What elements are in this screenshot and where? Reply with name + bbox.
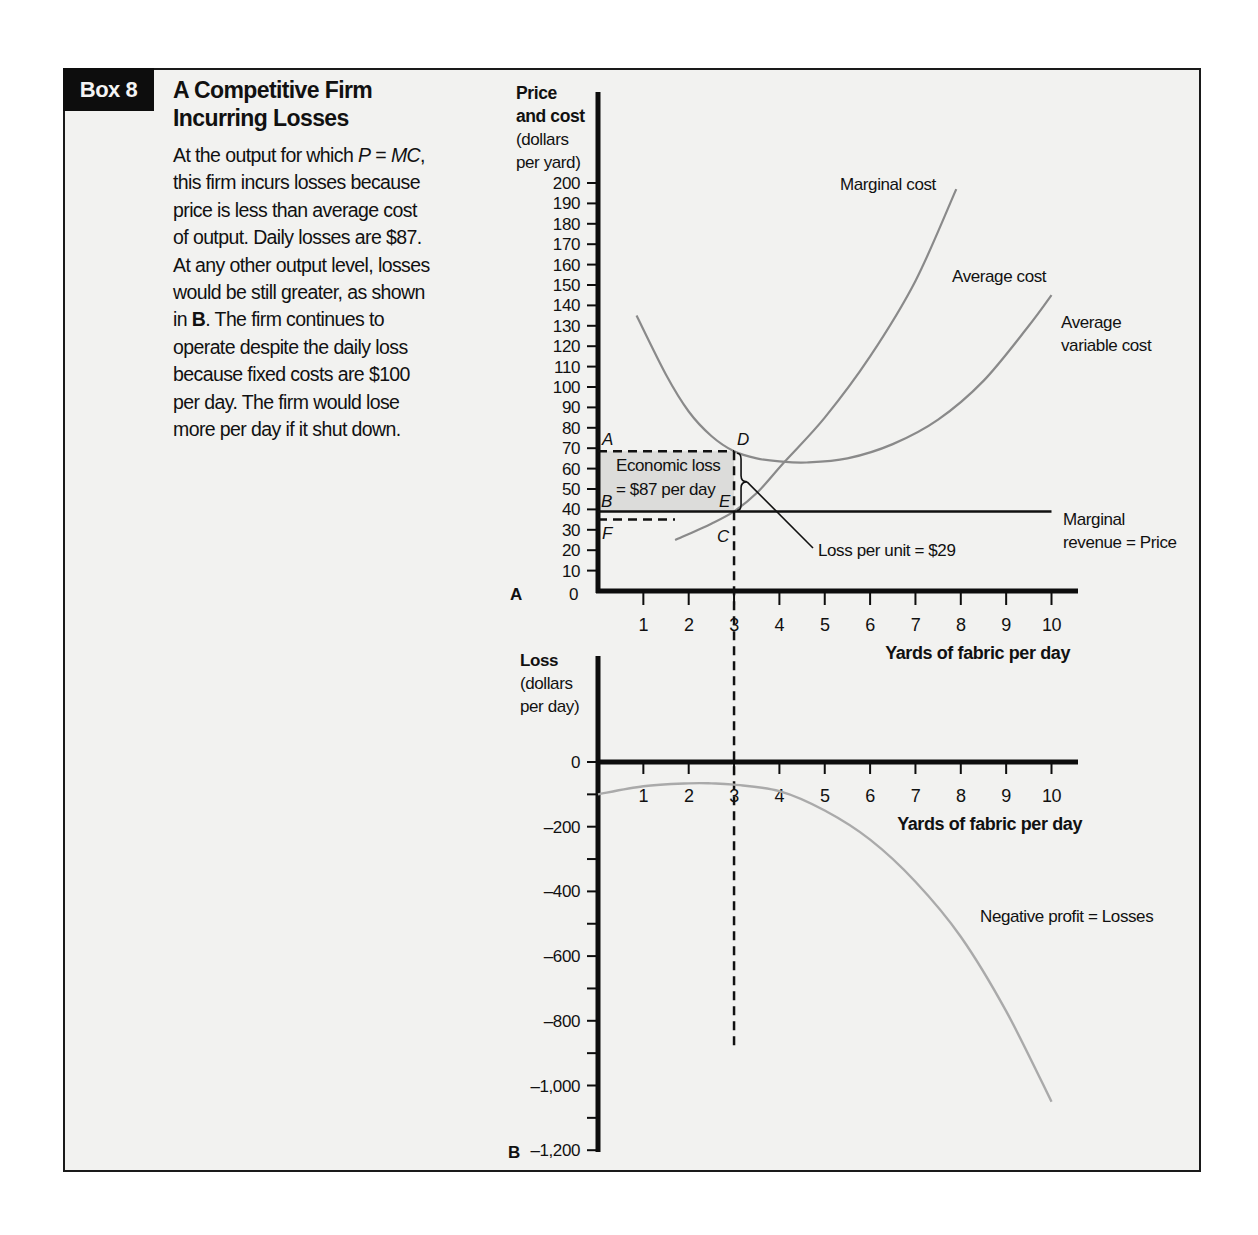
y-tick-label: 190 (553, 194, 580, 213)
y-tick-label: 150 (553, 276, 580, 295)
x-tick-label-b: 10 (1042, 786, 1062, 806)
avc-label-line1: Average (1061, 313, 1121, 332)
y-tick-label-b: 0 (571, 753, 580, 772)
marginal-cost-label: Marginal cost (840, 175, 937, 194)
x-tick-label-b: 6 (865, 786, 875, 806)
x-tick-label-b: 4 (775, 786, 785, 806)
x-tick-label: 4 (775, 615, 785, 635)
point-label-a: A (601, 430, 613, 449)
x-tick-label: 10 (1042, 615, 1062, 635)
mr-label-line1: Marginal (1063, 510, 1125, 529)
x-tick-label: 9 (1001, 615, 1011, 635)
y-tick-label-b: –800 (544, 1012, 580, 1031)
point-label-b: B (601, 492, 612, 511)
chart-canvas: 0102030405060708090100110120130140150160… (0, 0, 1258, 1235)
average-cost-curve (637, 295, 1052, 462)
x-tick-label-b: 3 (729, 786, 739, 806)
y-tick-label-b: –400 (544, 882, 580, 901)
y-tick-label: 200 (553, 174, 580, 193)
y-tick-label: 130 (553, 317, 580, 336)
average-cost-label: Average cost (952, 267, 1047, 286)
x-tick-label-b: 5 (820, 786, 830, 806)
point-label-f: F (602, 524, 614, 543)
y-tick-label: 60 (562, 460, 580, 479)
y-tick-label-b: –1,200 (530, 1141, 580, 1160)
y-axis-label: (dollars (516, 130, 569, 149)
x-tick-label: 5 (820, 615, 830, 635)
x-tick-label-b: 1 (639, 786, 649, 806)
y-axis-label-b: Loss (520, 651, 558, 670)
y-tick-label: 40 (562, 500, 580, 519)
mr-label-line2: revenue = Price (1063, 533, 1177, 552)
y-tick-label: 10 (562, 562, 580, 581)
y-tick-label-b: –200 (544, 818, 580, 837)
x-axis-label-b: Yards of fabric per day (897, 814, 1082, 834)
y-axis-label-b: (dollars (520, 674, 573, 693)
avc-label-line2: variable cost (1061, 336, 1152, 355)
y-tick-label-b: –600 (544, 947, 580, 966)
y-tick-label: 120 (553, 337, 580, 356)
y-axis-label: per yard) (516, 153, 580, 172)
x-tick-label: 6 (865, 615, 875, 635)
losses-curve-label: Negative profit = Losses (980, 907, 1153, 926)
x-tick-label-b: 7 (911, 786, 921, 806)
y-tick-label-b: –1,000 (530, 1077, 580, 1096)
point-label-e: E (719, 492, 731, 511)
y-tick-label: 30 (562, 521, 580, 540)
economic-loss-value: = $87 per day (616, 480, 716, 499)
y-tick-label: 100 (553, 378, 580, 397)
y-tick-label: 140 (553, 296, 580, 315)
y-tick-label: 80 (562, 419, 580, 438)
y-axis-label-b: per day) (520, 697, 579, 716)
y-tick-label: 0 (569, 585, 578, 604)
x-tick-label-b: 8 (956, 786, 966, 806)
x-tick-label-b: 2 (684, 786, 694, 806)
panel-letter-b: B (508, 1143, 520, 1162)
y-tick-label: 70 (562, 439, 580, 458)
x-tick-label-b: 9 (1001, 786, 1011, 806)
y-tick-label: 180 (553, 215, 580, 234)
y-tick-label: 90 (562, 398, 580, 417)
y-tick-label: 50 (562, 480, 580, 499)
y-tick-label: 160 (553, 256, 580, 275)
y-tick-label: 110 (554, 358, 580, 377)
point-label-d: D (737, 430, 749, 449)
economic-loss-label: Economic loss (616, 456, 720, 475)
loss-per-unit-leader (747, 482, 813, 548)
x-tick-label: 1 (639, 615, 649, 635)
y-axis-label: Price (516, 83, 557, 103)
y-tick-label: 20 (562, 541, 580, 560)
x-tick-label: 7 (911, 615, 921, 635)
point-label-c: C (717, 527, 730, 546)
y-axis-label: and cost (516, 106, 585, 126)
loss-per-unit-label: Loss per unit = $29 (818, 541, 955, 560)
x-tick-label: 8 (956, 615, 966, 635)
y-tick-label: 170 (553, 235, 580, 254)
x-tick-label: 2 (684, 615, 694, 635)
panel-letter-a: A (510, 585, 522, 604)
x-axis-label-a: Yards of fabric per day (885, 643, 1070, 663)
